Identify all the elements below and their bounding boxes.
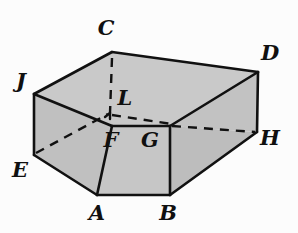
vertex-label-F: F: [104, 129, 119, 150]
vertex-label-H: H: [260, 127, 280, 148]
geometry-figure: CDJLFGHEAB: [0, 0, 298, 233]
vertex-label-L: L: [118, 87, 133, 108]
vertex-label-E: E: [12, 159, 28, 180]
vertex-label-J: J: [16, 70, 26, 91]
vertex-label-B: B: [159, 202, 177, 223]
vertex-label-D: D: [261, 42, 279, 63]
edge-D-H: [257, 72, 258, 132]
vertex-label-C: C: [98, 17, 115, 38]
faces-group: [34, 52, 258, 195]
vertex-label-G: G: [141, 129, 159, 150]
solid-diagram-canvas: [0, 0, 298, 233]
vertex-label-A: A: [89, 202, 105, 223]
